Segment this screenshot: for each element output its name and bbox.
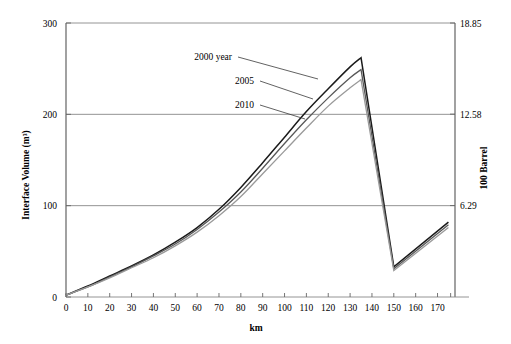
y-axis-left-title: Interface Volume (m³): [21, 130, 32, 219]
y-axis-left-tick-label: 300: [43, 19, 58, 29]
y-axis-right-tick-label: 6.29: [460, 201, 477, 211]
x-axis-tick-label: 120: [321, 303, 336, 313]
x-axis-tick-label: 100: [277, 303, 292, 313]
y-axis-left-tick-label: 200: [43, 110, 58, 120]
data-series-line: [66, 70, 448, 296]
x-axis-tick-label: 90: [258, 303, 268, 313]
x-axis-tick-label: 50: [171, 303, 181, 313]
x-axis-tick-label: 40: [149, 303, 159, 313]
y-axis-left-tick-label: 100: [43, 201, 58, 211]
data-series-line: [66, 80, 448, 296]
y-axis-right-ticks: [450, 23, 455, 206]
y-axis-left-tick-label: 0: [52, 293, 57, 303]
x-axis-tick-label: 130: [343, 303, 358, 313]
x-axis-tick-label: 30: [127, 303, 137, 313]
y-axis-right-tick-label: 12.58: [460, 110, 482, 120]
y-axis-right-tick-label: 18.85: [460, 19, 482, 29]
annotation-labels-group: 2000 year20052010: [194, 52, 254, 110]
data-series-line: [66, 58, 448, 295]
y-axis-left-tick-labels: 0100200300: [43, 19, 58, 303]
x-axis-ticks: [66, 293, 451, 297]
series-annotation-label: 2000 year: [194, 52, 233, 62]
chart-container: 0102030405060708090100110120130140150160…: [0, 0, 511, 344]
x-axis-tick-label: 170: [430, 303, 445, 313]
y-axis-right-title: 100 Barrel: [479, 146, 489, 189]
x-axis-tick-label: 110: [299, 303, 313, 313]
y-axis-left-ticks: [66, 23, 71, 297]
series-annotation-label: 2005: [235, 76, 254, 86]
x-axis-tick-label: 160: [409, 303, 424, 313]
annotation-leader-line: [260, 81, 313, 99]
x-axis-tick-label: 0: [64, 303, 69, 313]
x-axis-tick-labels: 0102030405060708090100110120130140150160…: [64, 303, 445, 313]
x-axis-tick-label: 150: [387, 303, 402, 313]
annotation-leader-line: [260, 105, 305, 119]
plot-frame: [66, 23, 469, 297]
line-chart: 0102030405060708090100110120130140150160…: [0, 0, 511, 344]
series-annotation-label: 2010: [235, 100, 254, 110]
gridlines-group: [66, 23, 455, 206]
x-axis-title: km: [249, 323, 262, 333]
x-axis-tick-label: 60: [192, 303, 202, 313]
x-axis-tick-label: 10: [83, 303, 93, 313]
x-axis-tick-label: 140: [365, 303, 380, 313]
x-axis-tick-label: 20: [105, 303, 115, 313]
x-axis-tick-label: 80: [236, 303, 246, 313]
x-axis-tick-label: 70: [214, 303, 224, 313]
data-series-group: [66, 58, 448, 295]
